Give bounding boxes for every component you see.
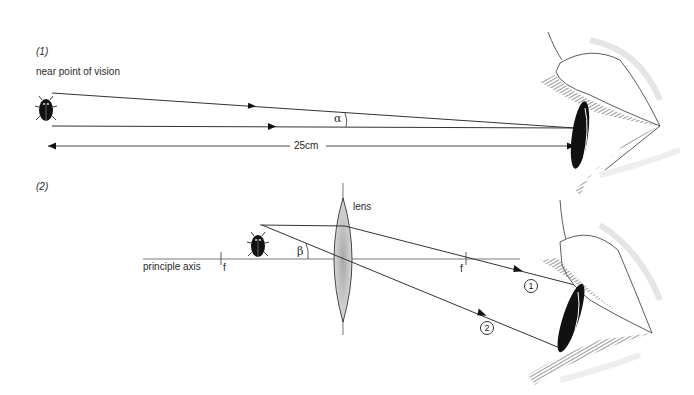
panel-2-magnifier xyxy=(143,183,660,385)
distance-label: 25cm xyxy=(294,141,318,151)
angle-beta-arc xyxy=(306,243,308,259)
ray-1 xyxy=(260,225,575,285)
lens-label: lens xyxy=(353,202,371,212)
ray-2-marker: 2 xyxy=(480,321,494,335)
optics-diagram xyxy=(0,0,694,395)
convex-lens xyxy=(334,198,352,322)
ray-2 xyxy=(262,225,560,348)
angle-alpha-arc xyxy=(345,113,347,127)
focal-label-left: f xyxy=(223,263,226,273)
ray-top xyxy=(52,93,575,128)
panel-1-near-point xyxy=(35,32,680,196)
eye-2 xyxy=(528,200,660,385)
panel-2-number: (2) xyxy=(36,182,48,192)
eye-1 xyxy=(540,32,680,196)
ray-axis xyxy=(52,126,575,128)
beetle-icon xyxy=(35,96,57,121)
beetle-icon-2 xyxy=(247,232,269,257)
panel-1-caption: near point of vision xyxy=(36,67,120,77)
angle-alpha-label: α xyxy=(334,113,341,124)
panel-1-number: (1) xyxy=(36,47,48,57)
ray-1-marker: 1 xyxy=(524,279,538,293)
focal-label-right: f xyxy=(460,264,463,274)
principle-axis-label: principle axis xyxy=(143,262,201,272)
angle-beta-label: β xyxy=(297,246,303,257)
